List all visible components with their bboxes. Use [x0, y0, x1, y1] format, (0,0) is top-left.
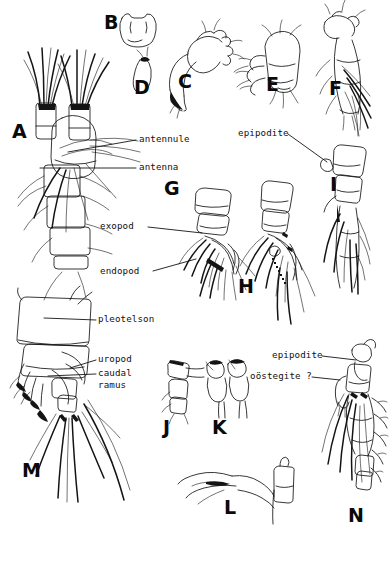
panel-h-art — [240, 181, 315, 324]
panel-letter-n: N — [348, 506, 364, 525]
label-leader-lines — [40, 134, 356, 380]
leader-line-epipodite-n — [322, 356, 356, 360]
label-endopod: endopod — [100, 266, 139, 277]
panel-c-art — [169, 19, 244, 118]
leader-line-pleotelson — [44, 318, 96, 320]
label-antenna: antenna — [139, 162, 178, 173]
label-antennule: antennule — [139, 134, 190, 145]
label-caudal-ramus: caudal — [98, 368, 132, 379]
panel-letter-j: J — [163, 418, 170, 437]
panel-letter-e: E — [266, 75, 279, 94]
panel-letter-b: B — [104, 13, 118, 32]
leader-line-caudal-ramus — [48, 374, 96, 376]
panel-letter-k: K — [212, 418, 227, 437]
panel-letter-l: L — [224, 498, 236, 517]
panel-a-art — [18, 48, 140, 300]
leader-line-exopod — [148, 227, 202, 233]
label-epipodite-i: epipodite — [238, 128, 289, 139]
panel-letter-m: M — [22, 461, 41, 480]
figure-plate: .s{fill:none;stroke:#141414;stroke-width… — [0, 0, 389, 563]
panel-f-art — [316, 0, 371, 136]
label-exopod: exopod — [100, 221, 134, 232]
panel-j-art — [162, 360, 204, 424]
panel-k-art — [206, 359, 249, 418]
leader-line-antennule — [68, 140, 136, 152]
panel-letter-f: F — [329, 79, 342, 98]
panel-i-art — [321, 145, 371, 294]
leader-line-oostegite — [312, 377, 340, 380]
panel-letter-d: D — [134, 78, 150, 97]
leader-line-epipodite-i — [288, 134, 327, 162]
label-epipodite-n: epipodite — [272, 350, 323, 361]
panel-letter-c: C — [178, 72, 192, 91]
label-caudal-ramus-2: ramus — [98, 380, 126, 391]
leader-line-uropod — [70, 360, 96, 368]
label-pleotelson: pleotelson — [98, 314, 154, 325]
label-uropod: uropod — [98, 354, 132, 365]
panel-b-art — [120, 14, 157, 47]
panel-letter-g: G — [164, 179, 180, 198]
panel-letter-a: A — [12, 122, 27, 141]
leader-line-endopod — [153, 259, 196, 271]
panel-letter-i: I — [330, 175, 337, 194]
panel-letter-h: H — [238, 277, 254, 296]
panel-n-art — [322, 340, 388, 491]
label-oostegite: oöstegite ? — [250, 371, 312, 382]
